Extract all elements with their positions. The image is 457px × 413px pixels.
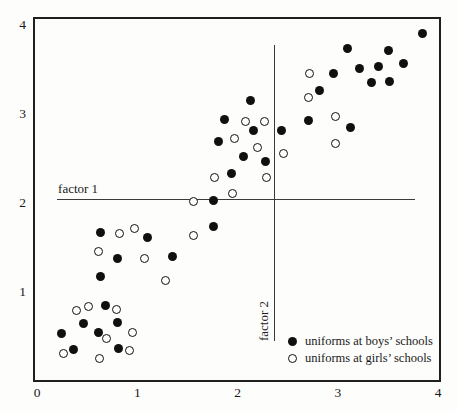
- data-point-boys: [113, 254, 122, 263]
- data-point-boys: [220, 115, 229, 124]
- data-point-boys: [343, 44, 352, 53]
- data-point-boys: [249, 126, 258, 135]
- x-tick-label: 1: [127, 386, 147, 400]
- legend-item-boys: uniforms at boys’ schools: [288, 333, 433, 350]
- x-tick-label: 2: [228, 386, 248, 400]
- data-point-boys: [143, 233, 152, 242]
- data-point-boys: [209, 196, 218, 205]
- open-circle-marker-icon: [288, 354, 297, 363]
- data-point-boys: [214, 137, 223, 146]
- data-point-girls: [262, 173, 271, 182]
- data-point-girls: [260, 117, 269, 126]
- legend-label-boys: uniforms at boys’ schools: [305, 334, 433, 349]
- data-point-girls: [112, 305, 121, 314]
- data-point-boys: [69, 345, 78, 354]
- data-point-girls: [210, 173, 219, 182]
- x-tick-label: 4: [428, 386, 448, 400]
- y-tick-label: 3: [4, 107, 26, 121]
- factor1-line: [57, 199, 415, 200]
- data-point-boys: [96, 272, 105, 281]
- data-point-boys: [329, 69, 338, 78]
- filled-circle-marker-icon: [288, 337, 297, 346]
- data-point-girls: [279, 149, 288, 158]
- y-tick-label: 2: [4, 196, 26, 210]
- data-point-boys: [304, 116, 313, 125]
- y-tick-label: 4: [4, 18, 26, 32]
- data-point-boys: [57, 329, 66, 338]
- legend-label-girls: uniforms at girls’ schools: [305, 351, 432, 366]
- data-point-boys: [101, 301, 110, 310]
- scatter-plot-figure: factor 1 factor 2 012341234 uniforms at …: [0, 0, 457, 413]
- data-point-girls: [59, 349, 68, 358]
- data-point-boys: [277, 126, 286, 135]
- legend: uniforms at boys’ schools uniforms at gi…: [288, 333, 433, 367]
- data-point-boys: [96, 228, 105, 237]
- data-point-boys: [261, 157, 270, 166]
- x-tick-label: 3: [328, 386, 348, 400]
- data-point-girls: [125, 346, 134, 355]
- factor2-label: factor 2: [256, 301, 271, 341]
- x-tick-label: 0: [27, 386, 47, 400]
- data-point-girls: [241, 117, 250, 126]
- data-point-girls: [115, 229, 124, 238]
- data-point-girls: [304, 93, 313, 102]
- data-point-girls: [161, 276, 170, 285]
- data-point-girls: [84, 302, 93, 311]
- y-tick-label: 1: [4, 285, 26, 299]
- data-point-girls: [228, 189, 237, 198]
- data-point-boys: [79, 319, 88, 328]
- data-point-boys: [168, 252, 177, 261]
- data-point-girls: [305, 69, 314, 78]
- factor1-label: factor 1: [58, 182, 98, 196]
- data-point-boys: [209, 222, 218, 231]
- data-point-girls: [130, 224, 139, 233]
- data-point-boys: [113, 318, 122, 327]
- data-point-girls: [95, 354, 104, 363]
- legend-item-girls: uniforms at girls’ schools: [288, 350, 433, 367]
- data-point-girls: [189, 197, 198, 206]
- factor2-line: [274, 45, 275, 341]
- data-point-girls: [140, 254, 149, 263]
- data-point-girls: [72, 306, 81, 315]
- data-point-girls: [102, 334, 111, 343]
